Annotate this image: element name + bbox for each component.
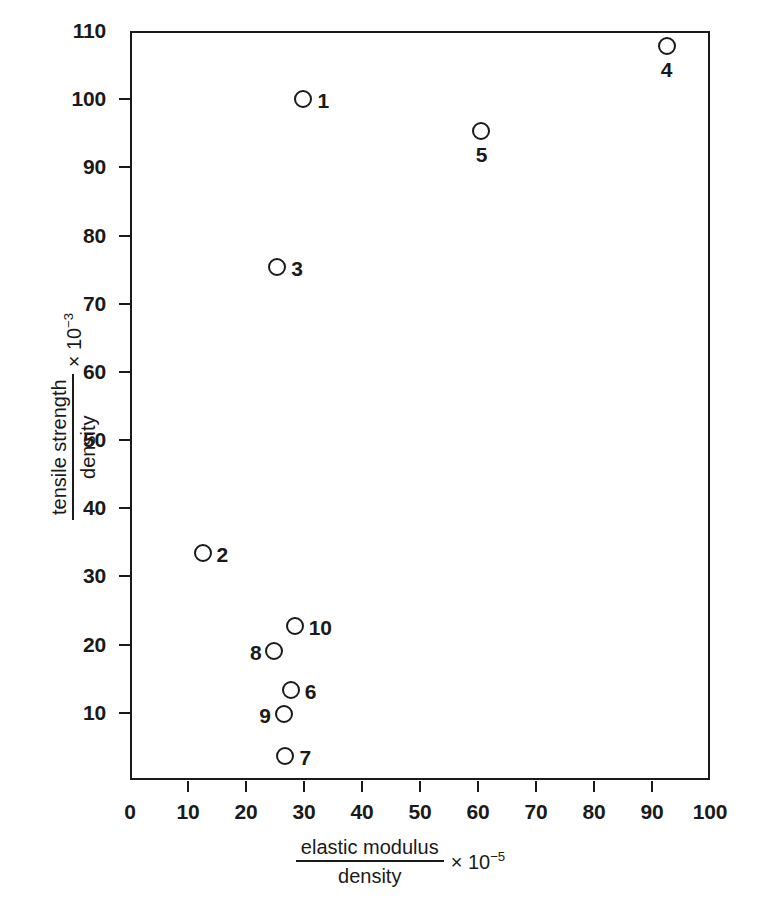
x-axis-fraction: elastic modulus density bbox=[296, 836, 444, 888]
data-point-label: 8 bbox=[250, 642, 261, 663]
y-axis-tick bbox=[119, 235, 130, 237]
plot-frame bbox=[130, 31, 710, 780]
y-axis-tick-label: 30 bbox=[50, 565, 106, 586]
data-point-label: 4 bbox=[661, 59, 672, 80]
y-axis-numerator: tensile strength bbox=[48, 374, 74, 520]
y-axis-tick bbox=[119, 303, 130, 305]
x-axis-tick bbox=[593, 781, 595, 792]
data-point-marker bbox=[658, 37, 676, 55]
x-axis-numerator: elastic modulus bbox=[296, 836, 444, 862]
y-axis-tick-label: 100 bbox=[50, 88, 106, 109]
data-point-marker bbox=[275, 705, 293, 723]
x-axis-tick bbox=[419, 781, 421, 792]
data-point-label: 10 bbox=[309, 617, 332, 638]
data-point-label: 2 bbox=[217, 544, 228, 565]
x-axis-tick bbox=[303, 781, 305, 792]
y-axis-exponent: −3 bbox=[61, 313, 76, 328]
data-point-marker bbox=[286, 617, 304, 635]
y-axis-fraction: tensile strength density bbox=[48, 374, 100, 520]
x-axis-tick bbox=[477, 781, 479, 792]
x-axis-tick bbox=[245, 781, 247, 792]
x-axis-tick bbox=[187, 781, 189, 792]
data-point-marker bbox=[194, 544, 212, 562]
x-axis-tick bbox=[535, 781, 537, 792]
x-axis-denominator: density bbox=[296, 862, 444, 887]
y-axis-tick-label: 10 bbox=[50, 702, 106, 723]
y-axis-tick bbox=[119, 166, 130, 168]
scatter-chart-figure: 102030405060708090100110 010203040506070… bbox=[0, 0, 757, 903]
y-axis-tick bbox=[119, 575, 130, 577]
y-axis-tick bbox=[119, 712, 130, 714]
y-axis-tick bbox=[119, 507, 130, 509]
x-axis-title: elastic modulus density × 10−5 bbox=[0, 836, 757, 888]
x-axis-exponent: −5 bbox=[490, 849, 505, 864]
y-axis-denominator: density bbox=[74, 374, 99, 520]
y-axis-tick-label: 110 bbox=[50, 20, 106, 41]
y-axis-tick bbox=[119, 98, 130, 100]
data-point-label: 6 bbox=[305, 681, 316, 702]
y-axis-tick-label: 90 bbox=[50, 156, 106, 177]
x-axis-tick bbox=[361, 781, 363, 792]
x-axis-multiplier: × 10−5 bbox=[444, 851, 506, 873]
data-point-label: 3 bbox=[291, 258, 302, 279]
y-axis-tick bbox=[119, 371, 130, 373]
y-axis-multiplier: × 10−3 bbox=[63, 313, 85, 375]
data-point-label: 7 bbox=[299, 747, 310, 768]
y-axis-tick-label: 20 bbox=[50, 634, 106, 655]
data-point-label: 5 bbox=[476, 144, 487, 165]
x-axis-tick-label: 100 bbox=[670, 801, 750, 822]
data-point-marker bbox=[282, 681, 300, 699]
data-point-label: 1 bbox=[317, 90, 328, 111]
y-axis-tick bbox=[119, 439, 130, 441]
x-axis-tick bbox=[651, 781, 653, 792]
y-axis-tick bbox=[119, 644, 130, 646]
y-axis-title: tensile strength density × 10−3 bbox=[48, 220, 108, 520]
data-point-label: 9 bbox=[259, 705, 270, 726]
